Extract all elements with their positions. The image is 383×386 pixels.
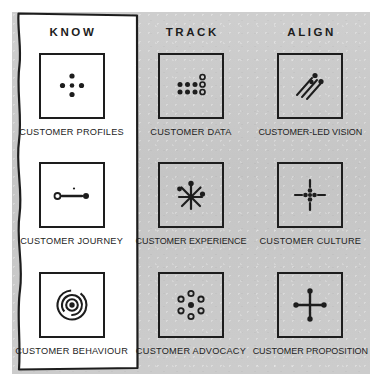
cell-label-customer-led-vision: CUSTOMER-LED VISION <box>258 128 362 137</box>
cell-customer-behaviour[interactable]: CUSTOMER BEHAVIOUR <box>12 265 131 374</box>
cell-customer-profiles[interactable]: CUSTOMER PROFILES <box>12 46 131 155</box>
column-heading-track: TRACK <box>131 12 250 46</box>
icon-box-customer-led-vision <box>277 53 343 119</box>
icon-box-customer-profiles <box>39 53 105 119</box>
framework-board: KNOW TRACK ALIGN CUSTOMER PROFILES <box>0 0 383 386</box>
icon-box-customer-behaviour <box>39 272 105 338</box>
cell-label-customer-experience: CUSTOMER EXPERIENCE <box>136 237 247 246</box>
cell-customer-led-vision[interactable]: CUSTOMER-LED VISION <box>251 46 370 155</box>
icon-box-customer-experience <box>158 162 224 228</box>
diagonal-motion-lines-icon <box>288 64 332 108</box>
cell-label-customer-proposition: CUSTOMER PROPOSITION <box>253 347 368 356</box>
hub-with-six-rings-icon <box>169 283 213 327</box>
cell-label-customer-journey: CUSTOMER JOURNEY <box>20 237 123 246</box>
concentric-target-icon <box>50 283 94 327</box>
icon-box-customer-journey <box>39 162 105 228</box>
icon-box-customer-advocacy <box>158 272 224 338</box>
dot-grid-filled-hollow-icon <box>169 64 213 108</box>
icon-box-customer-culture <box>277 162 343 228</box>
cell-customer-experience[interactable]: CUSTOMER EXPERIENCE <box>131 155 250 264</box>
framework-grid: KNOW TRACK ALIGN CUSTOMER PROFILES <box>12 12 370 374</box>
cell-customer-data[interactable]: CUSTOMER DATA <box>131 46 250 155</box>
dot-cluster-four-dashes-icon <box>287 172 333 218</box>
icon-box-customer-proposition <box>277 272 343 338</box>
icon-box-customer-data <box>158 53 224 119</box>
cell-label-customer-culture: CUSTOMER CULTURE <box>259 237 361 246</box>
cross-with-four-dots-icon <box>287 282 333 328</box>
cell-label-customer-data: CUSTOMER DATA <box>150 128 231 137</box>
path-line-two-nodes-icon <box>48 175 96 215</box>
starburst-asterisk-icon <box>169 173 213 217</box>
cell-customer-culture[interactable]: CUSTOMER CULTURE <box>251 155 370 264</box>
cell-customer-proposition[interactable]: CUSTOMER PROPOSITION <box>251 265 370 374</box>
column-heading-know: KNOW <box>12 12 131 46</box>
cell-label-customer-advocacy: CUSTOMER ADVOCACY <box>136 347 246 356</box>
cell-customer-advocacy[interactable]: CUSTOMER ADVOCACY <box>131 265 250 374</box>
column-heading-align: ALIGN <box>251 12 370 46</box>
cell-label-customer-behaviour: CUSTOMER BEHAVIOUR <box>15 347 128 356</box>
cell-customer-journey[interactable]: CUSTOMER JOURNEY <box>12 155 131 264</box>
five-dots-diamond-icon <box>51 65 93 107</box>
cell-label-customer-profiles: CUSTOMER PROFILES <box>19 128 124 137</box>
